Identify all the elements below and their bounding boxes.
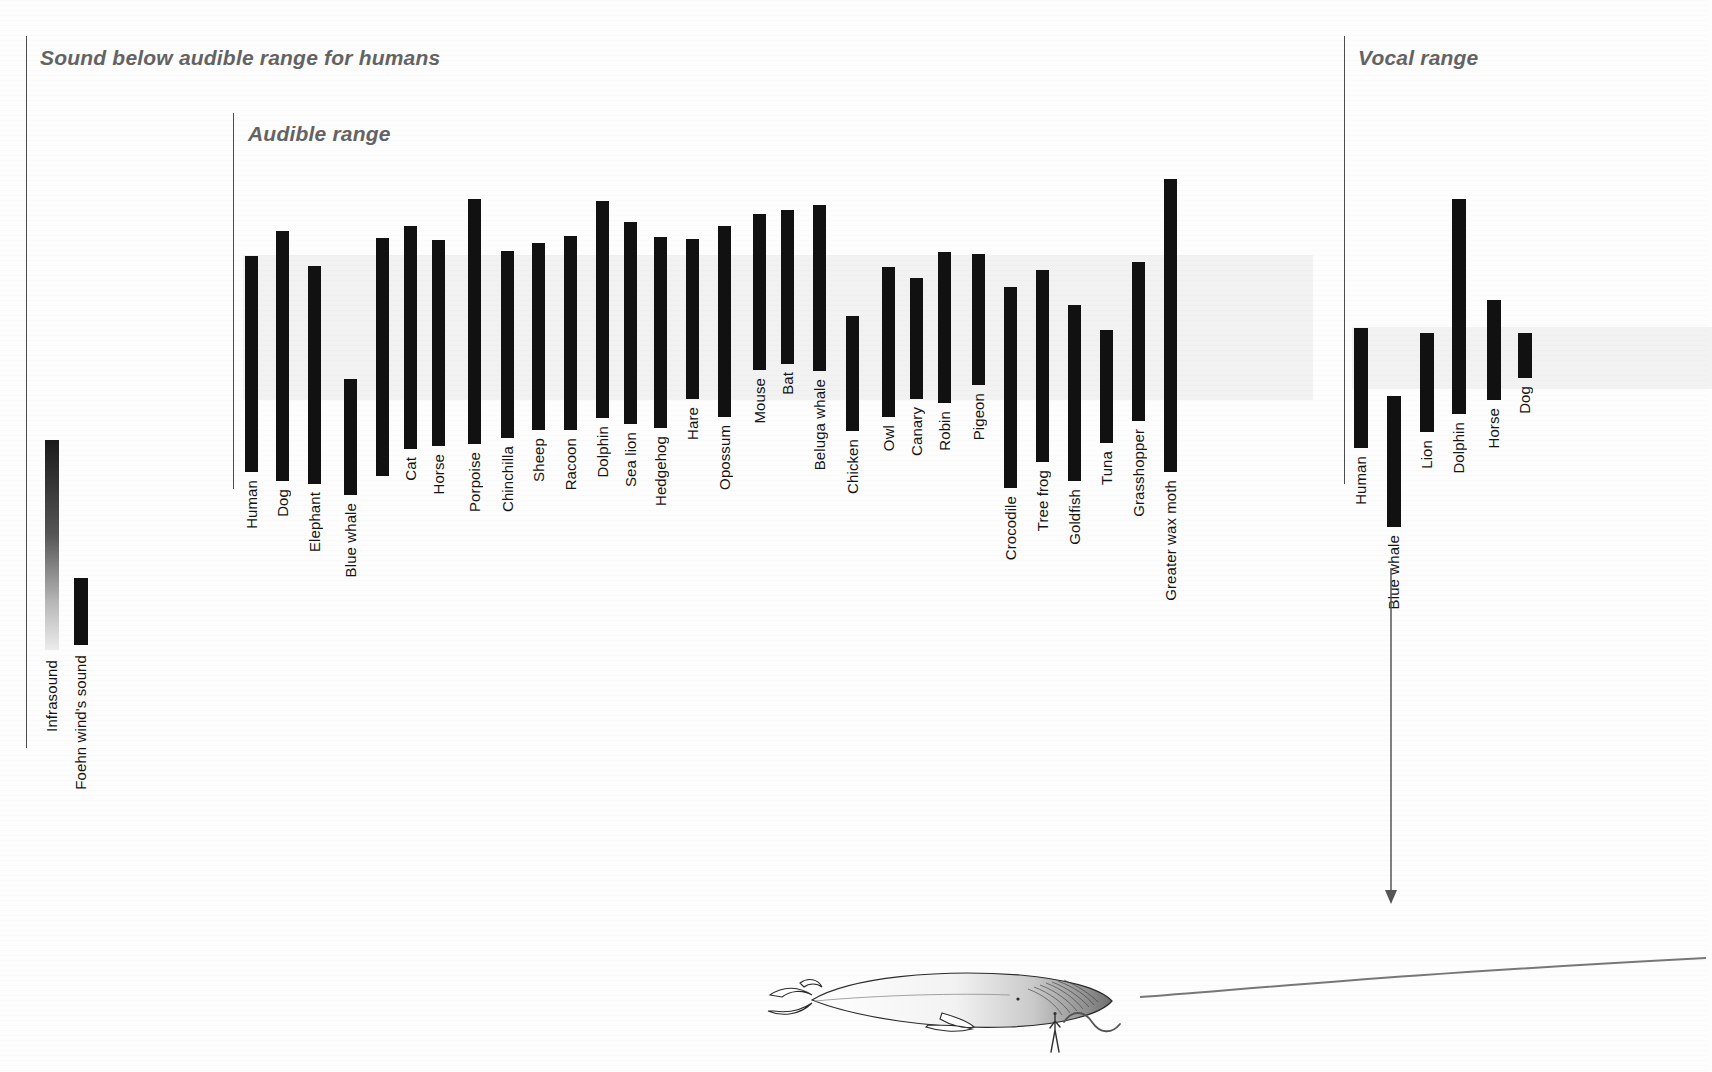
bar-label-porpoise: Porpoise bbox=[466, 452, 483, 512]
bar-lion[interactable] bbox=[1420, 333, 1434, 432]
bar-dog[interactable] bbox=[1518, 333, 1532, 378]
bar-label-beluga-whale: Beluga whale bbox=[811, 379, 828, 470]
bar-label-human: Human bbox=[243, 480, 260, 529]
infrasound-section-title: Sound below audible range for humans bbox=[40, 46, 440, 70]
bar-dolphin[interactable] bbox=[596, 201, 609, 418]
audible-section-title: Audible range bbox=[248, 122, 391, 146]
bar-sea-lion[interactable] bbox=[624, 222, 637, 424]
bar-label-pigeon: Pigeon bbox=[970, 393, 987, 440]
bar-porpoise[interactable] bbox=[468, 199, 481, 444]
bar-label-cow: Cow bbox=[374, 444, 391, 474]
vocal-section-title: Vocal range bbox=[1358, 46, 1478, 70]
bar-label-sea-lion: Sea lion bbox=[622, 432, 639, 487]
bar-blue-whale[interactable] bbox=[1387, 396, 1401, 527]
bar-label-racoon: Racoon bbox=[562, 438, 579, 490]
bar-dolphin[interactable] bbox=[1452, 199, 1466, 414]
bar-racoon[interactable] bbox=[564, 236, 577, 430]
bar-greater-wax-moth[interactable] bbox=[1164, 179, 1177, 472]
bar-chinchilla[interactable] bbox=[501, 251, 514, 438]
bar-tuna[interactable] bbox=[1100, 330, 1113, 443]
bar-dog[interactable] bbox=[276, 231, 289, 481]
bar-label-tuna: Tuna bbox=[1098, 451, 1115, 485]
bar-sheep[interactable] bbox=[532, 243, 545, 430]
bar-label-foehn-wind-s-sound: Foehn wind's sound bbox=[72, 655, 89, 790]
bar-label-canary: Canary bbox=[908, 407, 925, 456]
bar-chicken[interactable] bbox=[846, 316, 859, 431]
bar-canary[interactable] bbox=[910, 278, 923, 399]
bar-horse[interactable] bbox=[432, 240, 445, 446]
bar-label-mouse: Mouse bbox=[751, 378, 768, 424]
audible-section-rule bbox=[233, 113, 234, 489]
bar-label-bat: Bat bbox=[779, 372, 796, 395]
bar-human[interactable] bbox=[1354, 328, 1368, 448]
bar-cow[interactable] bbox=[376, 238, 389, 476]
bar-label-opossum: Opossum bbox=[716, 425, 733, 490]
bar-robin[interactable] bbox=[938, 252, 951, 403]
bar-label-human: Human bbox=[1352, 456, 1369, 505]
bar-label-hare: Hare bbox=[684, 407, 701, 440]
bar-infrasound[interactable] bbox=[45, 440, 59, 650]
bar-mouse[interactable] bbox=[753, 214, 766, 370]
bar-human[interactable] bbox=[245, 256, 258, 472]
bar-label-horse: Horse bbox=[430, 454, 447, 495]
sound-wave-squiggle bbox=[1060, 1008, 1130, 1042]
bar-label-cat: Cat bbox=[402, 457, 419, 481]
human-hearing-band-vocal bbox=[1352, 327, 1712, 389]
bar-hedgehog[interactable] bbox=[654, 237, 667, 428]
bar-label-robin: Robin bbox=[936, 411, 953, 451]
bar-label-dolphin: Dolphin bbox=[1450, 422, 1467, 474]
bar-label-infrasound: Infrasound bbox=[43, 660, 60, 732]
bar-opossum[interactable] bbox=[718, 226, 731, 417]
bar-label-chinchilla: Chinchilla bbox=[499, 446, 516, 512]
bar-crocodile[interactable] bbox=[1004, 287, 1017, 488]
bar-bat[interactable] bbox=[781, 210, 794, 364]
bar-label-tree-frog: Tree frog bbox=[1034, 470, 1051, 531]
bar-horse[interactable] bbox=[1487, 300, 1501, 400]
bar-label-grasshopper: Grasshopper bbox=[1130, 429, 1147, 517]
bar-label-dog: Dog bbox=[274, 489, 291, 517]
bar-hare[interactable] bbox=[686, 239, 699, 399]
bar-label-horse: Horse bbox=[1485, 408, 1502, 449]
bar-elephant[interactable] bbox=[308, 266, 321, 484]
bar-label-lion: Lion bbox=[1418, 440, 1435, 469]
bar-label-dog: Dog bbox=[1516, 386, 1533, 414]
bar-blue-whale[interactable] bbox=[344, 379, 357, 495]
bar-label-owl: Owl bbox=[880, 425, 897, 451]
bar-foehn-wind-s-sound[interactable] bbox=[74, 578, 88, 645]
bar-label-hedgehog: Hedgehog bbox=[652, 436, 669, 506]
bar-label-crocodile: Crocodile bbox=[1002, 496, 1019, 560]
blue-whale-call-arrow bbox=[1100, 560, 1708, 1000]
bar-beluga-whale[interactable] bbox=[813, 205, 826, 371]
bar-tree-frog[interactable] bbox=[1036, 270, 1049, 462]
bar-label-chicken: Chicken bbox=[844, 439, 861, 494]
bar-label-sheep: Sheep bbox=[530, 438, 547, 482]
bar-cat[interactable] bbox=[404, 226, 417, 449]
bar-label-blue-whale: Blue whale bbox=[342, 503, 359, 577]
bar-grasshopper[interactable] bbox=[1132, 262, 1145, 421]
bar-owl[interactable] bbox=[882, 267, 895, 417]
bar-pigeon[interactable] bbox=[972, 254, 985, 385]
bar-label-goldfish: Goldfish bbox=[1066, 489, 1083, 545]
vocal-section-rule bbox=[1344, 36, 1345, 484]
bar-label-elephant: Elephant bbox=[306, 492, 323, 552]
infrasound-section-rule bbox=[26, 36, 27, 748]
bar-label-dolphin: Dolphin bbox=[594, 426, 611, 478]
bar-goldfish[interactable] bbox=[1068, 305, 1081, 481]
